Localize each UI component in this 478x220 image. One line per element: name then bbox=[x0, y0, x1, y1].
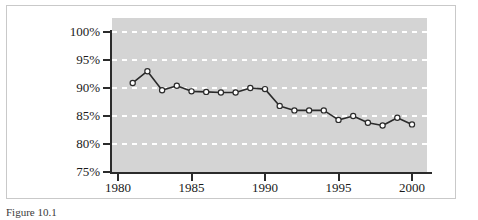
x-tick-label-1980: 1980 bbox=[88, 180, 148, 196]
figure-caption: Figure 10.1 bbox=[6, 206, 466, 219]
y-tick-85% bbox=[103, 115, 112, 117]
y-tick-75% bbox=[103, 171, 112, 173]
y-tick-label-85%: 85% bbox=[52, 109, 100, 122]
y-axis-line bbox=[110, 30, 112, 174]
gridline-100% bbox=[112, 31, 427, 33]
gridline-90% bbox=[112, 87, 427, 89]
figure-root: 75%80%85%90%95%100% 19801985199019952000… bbox=[0, 0, 478, 220]
gridline-95% bbox=[112, 59, 427, 61]
x-tick-label-1995: 1995 bbox=[309, 180, 369, 196]
x-tick-label-2000: 2000 bbox=[382, 180, 442, 196]
y-tick-label-95%: 95% bbox=[52, 53, 100, 66]
x-tick-label-1985: 1985 bbox=[162, 180, 222, 196]
y-axis-tick-labels: 75%80%85%90%95%100% bbox=[50, 0, 100, 200]
gridline-85% bbox=[112, 115, 427, 117]
y-tick-label-100%: 100% bbox=[52, 25, 100, 38]
x-tick-label-1990: 1990 bbox=[235, 180, 295, 196]
y-tick-90% bbox=[103, 87, 112, 89]
y-tick-95% bbox=[103, 59, 112, 61]
gridline-80% bbox=[112, 143, 427, 145]
x-axis-line bbox=[110, 172, 432, 174]
y-tick-label-90%: 90% bbox=[52, 81, 100, 94]
plot-area bbox=[112, 18, 427, 172]
y-tick-80% bbox=[103, 143, 112, 145]
y-tick-100% bbox=[103, 31, 112, 33]
y-tick-label-80%: 80% bbox=[52, 137, 100, 150]
y-tick-label-75%: 75% bbox=[52, 165, 100, 178]
